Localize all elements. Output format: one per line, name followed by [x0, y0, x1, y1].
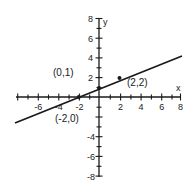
y-tick-label-neg6: -6: [87, 152, 95, 162]
x-tick-label-neg2: -2: [75, 102, 83, 112]
y-axis-label: y: [103, 17, 108, 27]
y-tick-label-2: 2: [88, 73, 93, 83]
y-tick-label-4: 4: [88, 53, 93, 63]
y-tick-label-neg4: -4: [87, 132, 95, 142]
x-tick-label-neg6: -6: [34, 102, 42, 112]
y-tick-label-6: 6: [88, 34, 93, 44]
point-marker-neg2-0: [77, 95, 81, 99]
y-tick-label-neg8: -8: [87, 172, 95, 182]
x-tick-label-2: 2: [118, 102, 123, 112]
x-tick-label-8: 8: [178, 102, 183, 112]
point-marker-0-1: [97, 86, 101, 90]
y-tick-label-8: 8: [88, 14, 93, 24]
x-tick-label-4: 4: [139, 102, 144, 112]
x-tick-label-neg4: -4: [55, 102, 63, 112]
graph-figure: y x 8 6 4 2 -4 -6 -8 -6 -4 -2 2 4 6 8 (0…: [0, 0, 192, 184]
point-label-0-1: (0,1): [53, 67, 74, 78]
x-tick-label-6: 6: [159, 102, 164, 112]
point-label-2-2: (2,2): [127, 77, 148, 88]
coordinate-plane: y x 8 6 4 2 -4 -6 -8 -6 -4 -2 2 4 6 8 (0…: [0, 0, 192, 184]
x-axis-label: x: [176, 83, 181, 93]
point-marker-2-2: [118, 76, 122, 80]
point-label-neg2-0: (-2,0): [55, 113, 79, 124]
